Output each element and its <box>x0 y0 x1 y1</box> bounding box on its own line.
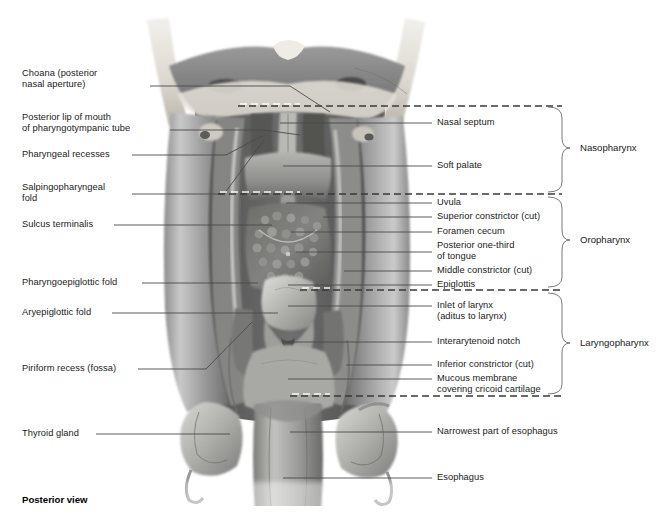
label-posterior-one-third-of-tongue: Posterior one-third of tongue <box>437 240 514 262</box>
thyroid-left-lobe <box>180 402 242 476</box>
figure-canvas: Choana (posterior nasal aperture) Poster… <box>0 0 658 530</box>
label-foramen-cecum: Foramen cecum <box>437 226 505 237</box>
thyroid-right-lobe <box>335 404 397 478</box>
label-interarytenoid-notch: Interarytenoid notch <box>437 336 520 347</box>
region-label-oropharynx: Oropharynx <box>580 234 630 245</box>
label-superior-constrictor-cut: Superior constrictor (cut) <box>437 211 540 222</box>
region-brackets <box>548 107 570 394</box>
label-epiglottis: Epiglottis <box>437 279 475 290</box>
label-salpingopharyngeal-fold: Salpingopharyngeal fold <box>22 182 105 204</box>
figure-caption: Posterior view <box>22 494 88 505</box>
label-soft-palate: Soft palate <box>437 160 482 171</box>
region-label-nasopharynx: Nasopharynx <box>580 142 637 153</box>
epiglottis-shape <box>261 275 316 330</box>
label-pharyngeal-recesses: Pharyngeal recesses <box>22 149 110 160</box>
region-label-laryngopharynx: Laryngopharynx <box>580 337 649 348</box>
label-nasal-septum: Nasal septum <box>437 117 494 128</box>
label-aryepiglottic-fold: Aryepiglottic fold <box>22 307 91 318</box>
label-posterior-lip-pharyngotympanic-tube: Posterior lip of mouth of pharyngotympan… <box>22 112 130 134</box>
label-mucous-membrane-covering-cricoid-cartilage: Mucous membrane covering cricoid cartila… <box>437 373 541 395</box>
label-uvula: Uvula <box>437 197 461 208</box>
label-choana: Choana (posterior nasal aperture) <box>22 68 97 90</box>
foramen-cecum-dot <box>286 252 290 256</box>
label-pharyngoepiglottic-fold: Pharyngoepiglottic fold <box>22 277 117 288</box>
label-thyroid-gland: Thyroid gland <box>22 428 79 439</box>
label-middle-constrictor-cut: Middle constrictor (cut) <box>437 265 532 276</box>
label-inlet-of-larynx: Inlet of larynx (aditus to larynx) <box>437 300 507 322</box>
label-piriform-recess: Piriform recess (fossa) <box>22 363 116 374</box>
label-sulcus-terminalis: Sulcus terminalis <box>22 219 93 230</box>
pharynx-illustration <box>125 8 455 518</box>
label-narrowest-part-of-esophagus: Narrowest part of esophagus <box>437 426 558 437</box>
skull-base <box>147 18 425 128</box>
soft-palate-shape <box>245 152 332 200</box>
label-inferior-constrictor-cut: Inferior constrictor (cut) <box>437 359 534 370</box>
label-esophagus: Esophagus <box>437 472 484 483</box>
